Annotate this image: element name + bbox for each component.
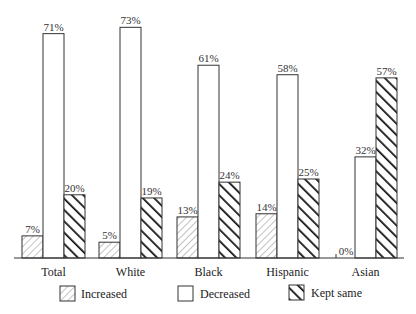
data-label: 25% xyxy=(298,166,318,178)
bar-decreased-white xyxy=(120,27,141,258)
bars-group: 7%71%20%5%73%19%13%61%24%14%58%25%0%32%5… xyxy=(22,14,397,258)
data-label: 71% xyxy=(43,21,63,33)
category-label-asian: Asian xyxy=(352,265,380,279)
bar-increased-total xyxy=(22,236,43,258)
bar-increased-hispanic xyxy=(256,214,277,258)
category-label-total: Total xyxy=(41,265,66,279)
data-label: 5% xyxy=(102,229,117,241)
data-label: 32% xyxy=(355,144,375,156)
data-label: 57% xyxy=(376,65,396,77)
legend-label-increased: Increased xyxy=(81,287,127,301)
bar-kept-same-total xyxy=(64,195,85,258)
data-label: 58% xyxy=(277,62,297,74)
bar-kept-same-black xyxy=(219,182,240,258)
legend-label-kept-same: Kept same xyxy=(311,286,362,300)
bar-kept-same-white xyxy=(141,198,162,258)
bar-kept-same-asian xyxy=(376,78,397,258)
data-label: 19% xyxy=(141,185,161,197)
category-label-white: White xyxy=(116,265,145,279)
data-label: 24% xyxy=(219,169,239,181)
bar-increased-white xyxy=(99,242,120,258)
data-label: 14% xyxy=(256,201,276,213)
bar-decreased-hispanic xyxy=(277,75,298,258)
legend: Increased Decreased Kept same xyxy=(60,285,362,301)
bar-decreased-black xyxy=(198,65,219,258)
legend-swatch-increased xyxy=(60,286,75,301)
category-label-black: Black xyxy=(195,265,223,279)
bar-decreased-total xyxy=(43,34,64,258)
legend-swatch-kept-same xyxy=(289,285,304,300)
legend-swatch-decreased xyxy=(178,286,193,301)
data-label: 20% xyxy=(64,182,84,194)
data-label: 13% xyxy=(177,204,197,216)
grouped-bar-chart: 7%71%20%5%73%19%13%61%24%14%58%25%0%32%5… xyxy=(0,0,416,314)
data-label: 61% xyxy=(198,52,218,64)
data-label: 0% xyxy=(339,245,354,257)
legend-label-decreased: Decreased xyxy=(200,287,250,301)
bar-decreased-asian xyxy=(355,157,376,258)
data-label: 7% xyxy=(25,223,40,235)
category-labels: TotalWhiteBlackHispanicAsian xyxy=(41,265,379,279)
bar-kept-same-hispanic xyxy=(298,179,319,258)
data-label: 73% xyxy=(120,14,140,26)
bar-increased-black xyxy=(177,217,198,258)
category-label-hispanic: Hispanic xyxy=(266,265,309,279)
